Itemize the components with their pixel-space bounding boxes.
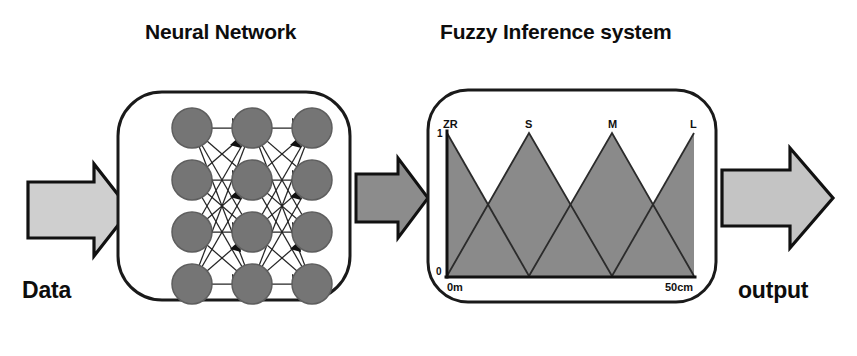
nn-node xyxy=(232,212,272,252)
x-axis-tick-end: 50cm xyxy=(665,281,693,293)
nn-node xyxy=(292,108,332,148)
diagram-graphics xyxy=(0,0,857,356)
y-axis-tick-max: 1 xyxy=(437,128,443,139)
x-axis-tick-start: 0m xyxy=(447,281,463,293)
membership-label-M: M xyxy=(608,118,617,130)
fis-to-output-arrow xyxy=(722,148,833,248)
nn-to-fis-arrow xyxy=(356,158,428,238)
nn-node xyxy=(232,160,272,200)
membership-label-ZR: ZR xyxy=(443,118,458,130)
nn-node xyxy=(172,212,212,252)
nn-node xyxy=(172,264,212,304)
nn-node xyxy=(172,160,212,200)
nn-node xyxy=(232,108,272,148)
nn-node xyxy=(172,108,212,148)
nn-node xyxy=(232,264,272,304)
nn-node xyxy=(292,212,332,252)
nn-node xyxy=(292,160,332,200)
membership-label-S: S xyxy=(525,118,532,130)
membership-label-L: L xyxy=(690,118,697,130)
input-arrow xyxy=(28,164,130,256)
diagram-canvas: Neural Network Fuzzy Inference system Da… xyxy=(0,0,857,356)
nn-node xyxy=(292,264,332,304)
y-axis-tick-min: 0 xyxy=(436,266,442,277)
